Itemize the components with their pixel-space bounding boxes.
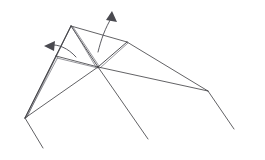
- figure-background: [0, 0, 265, 160]
- origami-line-drawing: [0, 0, 265, 160]
- origami-diagram-figure: [0, 0, 265, 160]
